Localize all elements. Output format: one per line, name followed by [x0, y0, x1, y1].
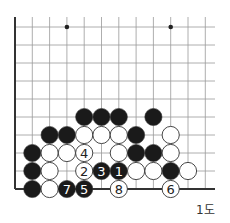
black-stone — [24, 144, 41, 161]
white-stone — [179, 162, 196, 179]
black-stone — [58, 126, 75, 143]
white-stone — [41, 144, 58, 161]
white-stone: 6 — [162, 180, 179, 197]
black-stone — [24, 162, 41, 179]
white-stone: 2 — [76, 162, 93, 179]
black-stone — [41, 126, 58, 143]
move-number: 5 — [80, 182, 88, 197]
move-number: 7 — [63, 182, 71, 197]
black-stone — [76, 108, 93, 125]
black-stone: 3 — [93, 162, 110, 179]
black-stone: 7 — [58, 180, 75, 197]
white-stone — [41, 162, 58, 179]
white-stone — [93, 126, 110, 143]
black-stone — [93, 108, 110, 125]
go-board-diagram: 42317586 — [0, 0, 230, 223]
black-stone — [110, 108, 127, 125]
white-stone — [162, 144, 179, 161]
move-number: 3 — [97, 164, 105, 179]
hoshi-point — [65, 25, 70, 30]
white-stone — [110, 144, 127, 161]
move-number: 6 — [167, 182, 175, 197]
diagram-caption: 1도 — [196, 200, 215, 217]
move-number: 2 — [80, 164, 88, 179]
white-stone — [58, 144, 75, 161]
move-number: 8 — [115, 182, 123, 197]
white-stone — [76, 126, 93, 143]
black-stone — [128, 144, 145, 161]
black-stone — [145, 108, 162, 125]
black-stone — [24, 180, 41, 197]
hoshi-point — [168, 25, 173, 30]
white-stone — [145, 162, 162, 179]
white-stone — [128, 162, 145, 179]
move-number: 4 — [80, 146, 88, 161]
black-stone — [145, 144, 162, 161]
black-stone: 5 — [76, 180, 93, 197]
black-stone — [128, 126, 145, 143]
black-stone — [162, 162, 179, 179]
white-stone: 8 — [110, 180, 127, 197]
white-stone — [41, 180, 58, 197]
white-stone — [110, 126, 127, 143]
move-number: 1 — [115, 164, 123, 179]
white-stone: 4 — [76, 144, 93, 161]
white-stone — [162, 126, 179, 143]
black-stone: 1 — [110, 162, 127, 179]
